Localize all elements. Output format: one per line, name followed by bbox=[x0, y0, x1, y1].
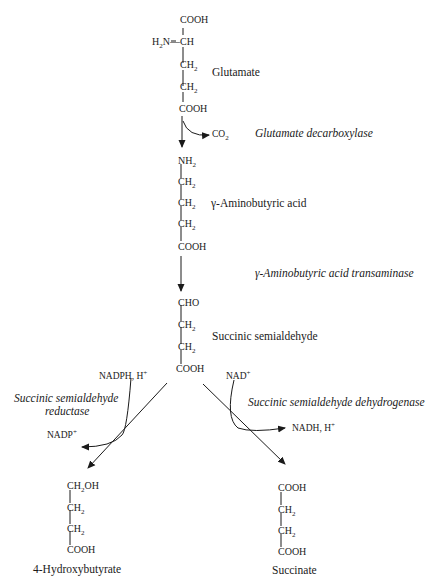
glutamate-amine: H2N— bbox=[152, 36, 180, 47]
sub: 2 bbox=[81, 529, 85, 537]
gaba-name: γ-Aminobutyric acid bbox=[211, 197, 306, 210]
amine-n: N— bbox=[163, 36, 180, 47]
atom: CH bbox=[278, 504, 292, 515]
sup: + bbox=[331, 421, 335, 429]
co: CO bbox=[212, 129, 225, 139]
sub: 2 bbox=[81, 508, 85, 516]
enzyme-gaba-transaminase: γ-Aminobutyric acid transaminase bbox=[255, 267, 413, 280]
nadh-product: NADH, H+ bbox=[292, 423, 335, 434]
gaba-ch2-1: CH2 bbox=[178, 176, 195, 187]
hb-ch2-2: CH2 bbox=[67, 523, 84, 534]
atom: CH bbox=[178, 218, 192, 229]
hb-ch2-1: CH2 bbox=[67, 502, 84, 513]
cofactor: NAD bbox=[226, 371, 247, 381]
glutamate-name: Glutamate bbox=[212, 66, 260, 79]
atom: CH bbox=[178, 197, 192, 208]
sub: 2 bbox=[292, 510, 296, 518]
pathway-lines bbox=[0, 0, 441, 588]
sup: + bbox=[247, 369, 251, 377]
sub: 2 bbox=[194, 65, 198, 73]
co2-byproduct: CO2 bbox=[212, 129, 229, 140]
ssa-name: Succinic semialdehyde bbox=[212, 330, 318, 343]
atom: CH bbox=[178, 341, 192, 352]
sub: 2 bbox=[192, 325, 196, 333]
nadph-cofactor: NADPH, H+ bbox=[99, 371, 147, 382]
glutamate-cooh-bottom: COOH bbox=[179, 103, 207, 114]
oh: OH bbox=[84, 480, 98, 491]
ssa-ch2-1: CH2 bbox=[178, 319, 195, 330]
cofactor: NADH, H bbox=[292, 423, 331, 433]
nad-cofactor: NAD+ bbox=[226, 371, 251, 382]
atom: CH bbox=[67, 502, 81, 513]
gaba-ch2-2: CH2 bbox=[178, 197, 195, 208]
cofactor: NADPH, H bbox=[99, 371, 143, 381]
sup: + bbox=[73, 428, 77, 436]
sub: 2 bbox=[225, 134, 229, 142]
succinate-name: Succinate bbox=[272, 564, 317, 577]
atom: CH bbox=[278, 525, 292, 536]
hb-ch2oh: CH2OH bbox=[67, 480, 99, 491]
ssa-cho: CHO bbox=[178, 297, 199, 308]
atom: CH bbox=[178, 319, 192, 330]
sub: 2 bbox=[192, 224, 196, 232]
atom: CH bbox=[67, 480, 81, 491]
glutamate-cooh-top: COOH bbox=[180, 14, 208, 25]
gaba-cooh: COOH bbox=[178, 241, 206, 252]
cofactor: NADP bbox=[47, 430, 73, 440]
glutamate-ch2-1: CH2 bbox=[180, 59, 197, 70]
gaba-nh2: NH2 bbox=[178, 155, 196, 166]
atom: NH bbox=[178, 155, 192, 166]
hb-cooh: COOH bbox=[67, 544, 95, 555]
succ-ch2-2: CH2 bbox=[278, 525, 295, 536]
enzyme-glutamate-decarboxylase: Glutamate decarboxylase bbox=[255, 127, 373, 140]
ssa-cooh: COOH bbox=[176, 363, 204, 374]
ssa-ch2-2: CH2 bbox=[178, 341, 195, 352]
enzyme-ssa-reductase-line1: Succinic semialdehyde bbox=[14, 392, 118, 405]
succ-ch2-1: CH2 bbox=[278, 504, 295, 515]
sub: 2 bbox=[192, 182, 196, 190]
succ-cooh-top: COOH bbox=[278, 482, 306, 493]
glutamate-ch2-2: CH2 bbox=[180, 81, 197, 92]
sub: 2 bbox=[194, 87, 198, 95]
sub: 2 bbox=[192, 161, 196, 169]
succ-cooh-bottom: COOH bbox=[278, 546, 306, 557]
gaba-ch2-3: CH2 bbox=[178, 218, 195, 229]
atom: CH bbox=[178, 176, 192, 187]
sub: 2 bbox=[192, 347, 196, 355]
sub: 2 bbox=[192, 203, 196, 211]
atom: CH bbox=[180, 59, 194, 70]
atom: CH bbox=[67, 523, 81, 534]
enzyme-ssa-dehydrogenase: Succinic semialdehyde dehydrogenase bbox=[248, 396, 424, 409]
atom: CH bbox=[180, 81, 194, 92]
enzyme-ssa-reductase-line2: reductase bbox=[45, 405, 89, 418]
sub: 2 bbox=[292, 531, 296, 539]
hb-name: 4-Hydroxybutyrate bbox=[33, 563, 121, 576]
sup: + bbox=[143, 369, 147, 377]
nadp-product: NADP+ bbox=[47, 430, 77, 441]
glutamate-ch: CH bbox=[180, 36, 194, 47]
